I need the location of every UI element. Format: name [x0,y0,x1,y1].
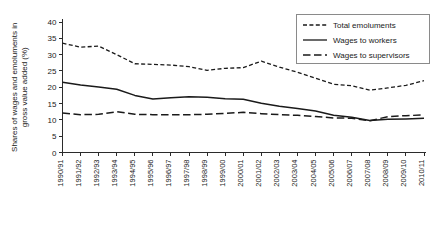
y-axis-tick-label: 20 [48,83,57,92]
x-axis-tick-label: 1995/96 [146,160,155,187]
y-axis-title-line1: Shares of wages and emoluments in [10,23,19,152]
x-axis-tick-label: 1997/98 [182,160,191,187]
y-axis-tick-label: 40 [48,18,57,27]
y-axis: 0510152025303540 [48,18,63,158]
line-chart: Shares of wages and emoluments ingross v… [0,0,435,236]
x-axis-tick-label: 1992/93 [92,160,101,187]
x-axis-tick-label: 2009/10 [399,160,408,187]
y-axis-tick-label: 15 [48,100,57,109]
y-axis-tick-label: 30 [48,51,57,60]
x-axis-tick-label: 2007/08 [363,160,372,187]
y-axis-tick-label: 5 [52,132,57,141]
legend-label-2: Wages to supervisors [333,51,410,60]
x-axis-tick-label: 2000/01 [236,160,245,187]
x-axis-tick-label: 2002/03 [272,160,281,187]
x-axis-tick-label: 2005/06 [327,160,336,187]
chart-figure: Shares of wages and emoluments ingross v… [0,0,435,236]
x-axis-tick-label: 2001/02 [254,160,263,187]
x-axis-tick-label: 1998/99 [200,160,209,187]
series-line-2 [63,112,425,121]
x-axis-tick-label: 2006/07 [345,160,354,187]
x-axis-tick-label: 1991/92 [74,160,83,187]
x-axis-tick-label: 2004/05 [309,160,318,187]
x-axis-tick-label: 1990/91 [56,160,65,187]
y-axis-tick-label: 0 [52,149,57,158]
chart-legend: Total emolumentsWages to workersWages to… [296,14,429,63]
y-axis-tick-label: 35 [48,34,57,43]
legend-label-0: Total emoluments [333,21,396,30]
x-axis: 1990/911991/921992/931993/941994/951995/… [56,153,427,187]
x-axis-tick-label: 1993/94 [110,160,119,187]
series-line-1 [63,82,425,120]
x-axis-tick-label: 2010/11 [417,160,426,187]
y-axis-tick-label: 10 [48,116,57,125]
x-axis-tick-label: 1994/95 [128,160,137,187]
x-axis-tick-label: 1996/97 [164,160,173,187]
y-axis-title: Shares of wages and emoluments ingross v… [10,23,29,152]
x-axis-tick-label: 1999/00 [218,160,227,187]
x-axis-tick-label: 2008/09 [381,160,390,187]
y-axis-tick-label: 25 [48,67,57,76]
x-axis-tick-label: 2003/04 [290,160,299,187]
legend-label-1: Wages to workers [333,36,397,45]
y-axis-title-line2: gross value added (%) [20,47,29,127]
